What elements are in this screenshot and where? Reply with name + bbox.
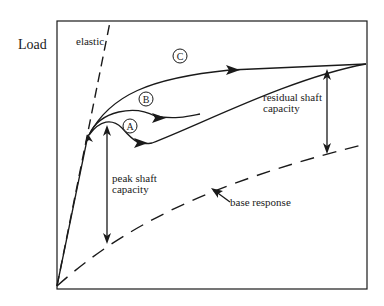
curve-c-marker: C (173, 49, 187, 63)
svg-text:B: B (143, 94, 150, 105)
svg-text:A: A (126, 121, 134, 132)
curve-a-marker: A (123, 119, 137, 133)
load-displacement-diagram: Load elastic C B A peak shaft capacity r… (0, 0, 384, 306)
base-response-label: base response (230, 196, 291, 208)
y-axis-label: Load (18, 37, 47, 52)
base-response-arrow-icon (211, 188, 223, 198)
curve-a-arrow-icon (134, 138, 148, 148)
curve-b-marker: B (139, 92, 153, 106)
base-response-curve (57, 144, 366, 286)
elastic-label: elastic (76, 35, 104, 47)
svg-text:C: C (177, 51, 184, 62)
peak-capacity-label-line2: capacity (112, 183, 149, 195)
residual-capacity-label-line2: capacity (263, 102, 300, 114)
curve-b-arrow-icon (152, 113, 166, 123)
